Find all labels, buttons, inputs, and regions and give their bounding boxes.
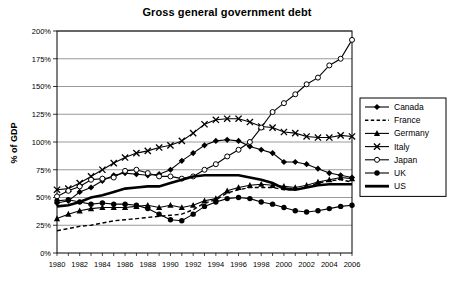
data-point-circle-open — [259, 125, 264, 130]
data-point-circle-open — [168, 174, 173, 179]
data-point-circle-open — [66, 188, 71, 193]
legend-label: Germany — [394, 128, 430, 138]
data-point-circle-open — [281, 101, 286, 106]
data-point-circle-open — [100, 176, 105, 181]
x-axis-tick-label: 1998 — [253, 260, 270, 269]
data-point-circle-open — [145, 171, 150, 176]
data-point-circle-filled — [122, 201, 127, 206]
data-point-circle-open — [247, 140, 252, 145]
x-axis-tick-label: 1986 — [117, 260, 134, 269]
data-point-circle-open — [77, 184, 82, 189]
chart-container: Gross general government debt % of GDP 0… — [0, 0, 454, 286]
data-point-circle-filled — [281, 205, 286, 210]
data-point-circle-open — [327, 63, 332, 68]
data-point-circle-filled — [327, 206, 332, 211]
data-point-circle-filled — [111, 201, 116, 206]
data-point-circle-filled — [224, 196, 229, 201]
data-point-circle-filled — [349, 203, 354, 208]
data-point-circle-filled — [259, 199, 264, 204]
data-point-circle-filled — [236, 195, 241, 200]
data-point-circle-filled — [374, 170, 379, 175]
data-point-circle-open — [304, 82, 309, 87]
x-axis-tick-label: 1980 — [49, 260, 66, 269]
data-point-circle-filled — [202, 204, 207, 209]
x-axis-tick-label: 2006 — [344, 260, 361, 269]
data-point-circle-filled — [134, 203, 139, 208]
data-point-circle-filled — [247, 196, 252, 201]
data-point-circle-open — [236, 147, 241, 152]
data-point-circle-open — [213, 162, 218, 167]
legend-label: US — [394, 181, 406, 191]
data-point-circle-filled — [315, 208, 320, 213]
data-point-circle-filled — [270, 201, 275, 206]
data-point-circle-open — [202, 167, 207, 172]
legend-label: Japan — [394, 155, 417, 165]
data-point-circle-filled — [168, 217, 173, 222]
data-point-circle-filled — [88, 201, 93, 206]
y-axis-tick-label: 150% — [32, 82, 52, 91]
x-axis-tick-label: 2002 — [298, 260, 315, 269]
data-point-circle-filled — [293, 208, 298, 213]
y-axis-tick-label: 0% — [40, 249, 51, 258]
data-point-circle-open — [111, 175, 116, 180]
data-point-circle-open — [157, 174, 162, 179]
y-axis-tick-label: 200% — [32, 27, 52, 36]
data-point-circle-open — [375, 157, 380, 162]
y-axis-tick-label: 75% — [36, 166, 51, 175]
legend-label: France — [394, 115, 421, 125]
data-point-circle-filled — [66, 197, 71, 202]
data-point-circle-filled — [179, 218, 184, 223]
x-axis-tick-label: 2004 — [321, 260, 338, 269]
y-axis-tick-label: 125% — [32, 110, 52, 119]
data-point-circle-open — [225, 154, 230, 159]
x-axis-tick-label: 1990 — [162, 260, 179, 269]
legend-label: UK — [394, 168, 406, 178]
x-axis-tick-label: 1982 — [71, 260, 88, 269]
data-point-circle-filled — [54, 198, 59, 203]
data-point-circle-filled — [338, 204, 343, 209]
data-point-circle-open — [293, 92, 298, 97]
data-point-circle-filled — [156, 211, 161, 216]
data-point-circle-filled — [190, 211, 195, 216]
y-axis-tick-label: 175% — [32, 55, 52, 64]
data-point-circle-open — [270, 110, 275, 115]
y-axis-tick-label: 50% — [36, 193, 51, 202]
x-axis-tick-label: 1984 — [94, 260, 111, 269]
data-point-circle-open — [123, 168, 128, 173]
legend-label: Italy — [394, 142, 410, 152]
data-point-circle-open — [338, 56, 343, 61]
data-point-circle-open — [134, 167, 139, 172]
x-axis-tick-label: 1996 — [230, 260, 247, 269]
legend-label: Canada — [394, 102, 424, 112]
data-point-circle-open — [315, 75, 320, 80]
data-point-circle-open — [89, 177, 94, 182]
data-point-circle-filled — [145, 206, 150, 211]
x-axis-tick-label: 2000 — [276, 260, 293, 269]
data-point-circle-open — [350, 37, 355, 42]
x-axis-tick-label: 1992 — [185, 260, 202, 269]
data-point-circle-filled — [304, 209, 309, 214]
chart-plot-area: 0%25%50%75%100%125%150%175%200%198019821… — [0, 0, 454, 286]
x-axis-tick-label: 1988 — [139, 260, 156, 269]
chart-legend: CanadaFranceGermanyItalyJapanUKUS — [360, 98, 446, 196]
data-point-circle-filled — [100, 200, 105, 205]
x-axis-tick-label: 1994 — [208, 260, 225, 269]
y-axis-tick-label: 100% — [32, 138, 52, 147]
data-point-circle-filled — [213, 199, 218, 204]
y-axis-tick-label: 25% — [36, 221, 51, 230]
